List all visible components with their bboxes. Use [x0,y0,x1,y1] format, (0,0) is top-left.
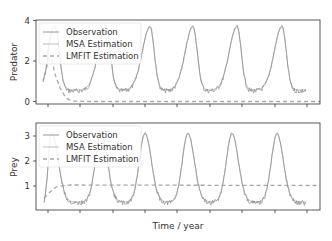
predator-ytick-2: 2 [25,56,30,66]
prey-lmfit-line [44,185,320,198]
predator-ytick-4: 4 [25,16,30,26]
prey-ytick-1: 1 [25,181,30,191]
predator-y-ticks [33,21,36,102]
prey-ytick-2: 2 [25,156,30,166]
prey-legend-msa: MSA Estimation [66,142,133,152]
predator-legend-msa: MSA Estimation [66,39,133,49]
predator-lmfit-line [43,58,320,102]
predator-ytick-0: 0 [25,97,30,107]
prey-x-ticks [48,210,307,213]
prey-y-ticks [33,136,36,186]
prey-ytick-3: 3 [25,131,30,141]
x-axis-label: Time / year [152,221,204,231]
prey-ylabel: Prey [9,157,19,177]
prey-legend-lmfit: LMFIT Estimation [66,154,139,164]
predator-legend: Observation MSA Estimation LMFIT Estimat… [39,23,141,64]
figure: 0 2 4 Predator Observation MSA Estimatio… [0,0,332,241]
predator-ylabel: Predator [9,43,19,82]
predator-x-ticks [48,104,307,107]
predator-legend-observation: Observation [66,27,118,37]
prey-legend: Observation MSA Estimation LMFIT Estimat… [39,126,141,167]
predator-panel: 0 2 4 Predator Observation MSA Estimatio… [9,16,320,108]
predator-legend-lmfit: LMFIT Estimation [66,51,139,61]
prey-legend-observation: Observation [66,130,118,140]
prey-panel: 1 2 3 Prey Time / year Observation MSA E… [9,123,320,231]
